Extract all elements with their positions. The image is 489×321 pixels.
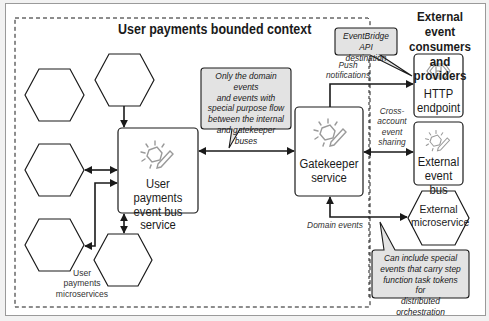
event-bus-service-label[interactable]: User payments event bus service bbox=[122, 178, 194, 233]
label-line: endpoint bbox=[416, 102, 460, 116]
edge-line: sharing bbox=[374, 137, 409, 147]
label-line: Gatekeeper bbox=[298, 158, 359, 172]
edge-line: notifications bbox=[323, 70, 372, 80]
callout-task-tokens-text: Can include special events that carry st… bbox=[379, 253, 462, 318]
callout-line: events that carry step bbox=[379, 264, 462, 275]
callout-line: and gatekeeper buses bbox=[207, 125, 284, 147]
edge-label-domain-events: Domain events bbox=[306, 220, 364, 230]
label-line: User payments bbox=[122, 178, 194, 206]
external-title-line: External event bbox=[401, 10, 478, 40]
microservice-hexagon bbox=[25, 144, 84, 196]
label-line: External bbox=[411, 203, 466, 216]
callout-line: distributed orchestration bbox=[379, 296, 462, 318]
microservice-hexagon bbox=[25, 69, 84, 121]
edge-label-cross-account: Cross- account event sharing bbox=[374, 106, 409, 148]
http-endpoint-label[interactable]: HTTP endpoint bbox=[416, 88, 460, 116]
external-title-line: consumers and bbox=[401, 40, 478, 70]
external-title-line: providers bbox=[401, 69, 478, 84]
label-line: External bbox=[416, 156, 460, 170]
microservice-hexagon bbox=[25, 219, 84, 271]
microservice-hexagon bbox=[95, 54, 154, 106]
label-line: event bus bbox=[416, 170, 460, 198]
callout-line: Only the domain events bbox=[207, 71, 284, 93]
label-line: microservice bbox=[411, 216, 466, 229]
external-title: External event consumers and providers bbox=[401, 10, 478, 84]
external-event-bus-label[interactable]: External event bus bbox=[416, 156, 460, 197]
microservices-label: User payments microservices bbox=[53, 268, 111, 299]
external-microservice-label[interactable]: External microservice bbox=[411, 203, 466, 228]
label-line: microservices bbox=[53, 289, 111, 299]
gatekeeper-service-label[interactable]: Gatekeeper service bbox=[298, 158, 359, 186]
bounded-context-title: User payments bounded context bbox=[118, 22, 311, 38]
callout-internal-flow-text: Only the domain events and events with s… bbox=[207, 71, 284, 146]
label-line: service bbox=[298, 172, 359, 186]
edge-label-push: Push notifications bbox=[323, 60, 372, 81]
label-line: event bus service bbox=[122, 206, 194, 234]
callout-line: function task tokens for bbox=[379, 275, 462, 297]
label-line: HTTP bbox=[416, 88, 460, 102]
arrow-push-notifications bbox=[330, 84, 413, 107]
